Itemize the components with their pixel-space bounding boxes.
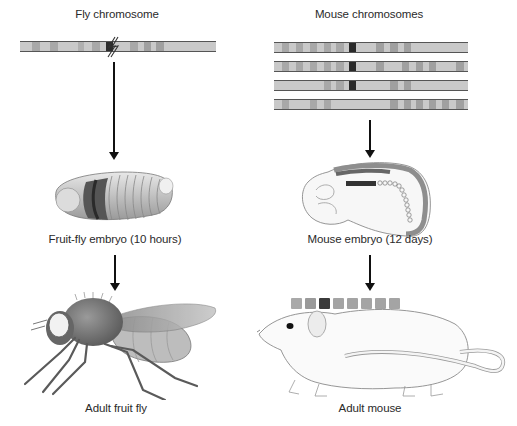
- chromosome-band: [404, 81, 411, 90]
- chromosome-band: [324, 100, 331, 109]
- chromosome-band: [282, 100, 289, 109]
- adult-mouse-image: [255, 300, 515, 400]
- chromosome-band: [282, 62, 289, 71]
- down-arrow: [369, 255, 371, 285]
- chromosome-band: [404, 100, 411, 109]
- chromosome-band: [324, 43, 331, 52]
- chromosome-band: [50, 42, 58, 51]
- chromosome-band: [310, 62, 317, 71]
- adult-fruit-fly-image: [15, 290, 220, 400]
- mouse-chromosome-2: [274, 61, 468, 72]
- chromosome-band: [296, 62, 303, 71]
- mouse-chromosomes-title: Mouse chromosomes: [315, 8, 423, 20]
- chromosome-band: [390, 43, 398, 52]
- fly-chromosome-title: Fly chromosome: [75, 8, 159, 20]
- chromosome-band: [349, 81, 356, 90]
- chromosome-band: [310, 100, 317, 109]
- mouse-chromosome-4: [274, 99, 468, 110]
- chromosome-band: [402, 62, 409, 71]
- chromosome-band: [296, 43, 303, 52]
- down-arrow: [114, 255, 116, 285]
- chromosome-band: [390, 81, 398, 90]
- mouse-chromosome-3: [274, 80, 468, 91]
- chromosome-band: [429, 100, 436, 109]
- chromosome-band: [78, 42, 84, 51]
- mouse-embryo-image: [298, 160, 433, 240]
- chromosome-band: [32, 42, 40, 51]
- chromosome-band: [282, 43, 289, 52]
- chromosome-band: [324, 62, 331, 71]
- chromosome-band: [376, 62, 384, 71]
- chromosome-band: [416, 100, 423, 109]
- chromosome-band: [130, 42, 138, 51]
- chromosome-band: [310, 43, 317, 52]
- adult-mouse-label: Adult mouse: [339, 402, 402, 414]
- chromosome-band: [456, 100, 464, 109]
- chromosome-band: [336, 81, 344, 90]
- chromosome-band: [390, 100, 398, 109]
- chromosome-band: [144, 42, 151, 51]
- chromosome-band: [376, 43, 384, 52]
- down-arrow: [113, 62, 115, 154]
- down-arrow: [369, 120, 371, 152]
- adult-fly-label: Adult fruit fly: [85, 402, 147, 414]
- mouse-embryo-label: Mouse embryo (12 days): [308, 233, 433, 245]
- fly-embryo-label: Fruit-fly embryo (10 hours): [49, 233, 182, 245]
- fruit-fly-embryo-image: [52, 170, 177, 225]
- chromosome-band: [349, 62, 356, 71]
- chromosome-band: [156, 42, 164, 51]
- chromosome-band: [349, 43, 356, 52]
- chromosome-band: [456, 62, 464, 71]
- chromosome-band: [324, 81, 331, 90]
- chromosome-break-icon: [102, 36, 124, 58]
- chromosome-band: [336, 43, 344, 52]
- chromosome-band: [336, 62, 344, 71]
- chromosome-band: [92, 42, 100, 51]
- chromosome-band: [442, 100, 449, 109]
- chromosome-band: [416, 62, 423, 71]
- chromosome-band: [429, 62, 436, 71]
- chromosome-band: [404, 43, 411, 52]
- mouse-chromosome-1: [274, 42, 468, 53]
